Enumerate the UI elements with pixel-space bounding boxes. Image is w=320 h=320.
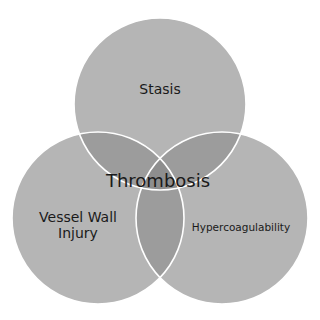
label-hypercoagulability: Hypercoagulability [192, 221, 290, 233]
venn-diagram: Stasis Thrombosis Vessel Wall Injury Hyp… [0, 0, 320, 320]
label-stasis: Stasis [139, 81, 180, 97]
label-vessel-line1: Vessel Wall [39, 209, 117, 225]
label-vessel-wall-injury: Vessel Wall Injury [39, 209, 117, 241]
venn-svg [0, 0, 320, 320]
label-thrombosis: Thrombosis [106, 171, 210, 192]
label-vessel-line2: Injury [39, 225, 117, 241]
